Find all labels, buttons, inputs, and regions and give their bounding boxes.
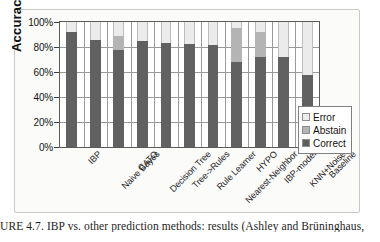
bar-segment-correct (113, 50, 124, 148)
bar-segment-error (302, 22, 313, 75)
bar-segment-error (66, 22, 77, 32)
bar-segment-error (137, 22, 148, 41)
bar-group[interactable] (161, 22, 172, 147)
x-axis-tick-labels: IBPNaive BayesCATODecision TreeTree->Rul… (59, 149, 320, 219)
bar-segment-error (255, 22, 266, 32)
bar-group[interactable] (208, 22, 219, 147)
bar-segment-correct (255, 57, 266, 147)
x-axis-tick-label: IBP (86, 149, 103, 166)
bar-segment-correct (278, 57, 289, 147)
legend-label-error: Error (313, 112, 335, 123)
bar-group[interactable] (66, 22, 77, 147)
bar-segment-correct (208, 45, 219, 148)
bar-group[interactable] (90, 22, 101, 147)
bar-group[interactable] (278, 22, 289, 147)
bar-segment-correct (90, 40, 101, 148)
y-axis-tick-60: 60% (34, 67, 53, 78)
bar-segment-correct (137, 41, 148, 147)
bars-layer (60, 22, 319, 147)
legend-item-error: Error (302, 111, 346, 123)
y-axis-tick-labels: 0%20%40%60%80%100% (15, 21, 59, 148)
figure-caption-number: URE 4.7. (0, 220, 44, 232)
legend-swatch-error-icon (302, 113, 310, 121)
bar-segment-error (208, 22, 219, 45)
y-axis-tick-0: 0% (39, 142, 53, 153)
legend-swatch-abstain-icon (302, 126, 310, 134)
bar-segment-error (90, 22, 101, 40)
bar-group[interactable] (184, 22, 195, 147)
bar-group[interactable] (231, 22, 242, 147)
figure-caption-text: IBP vs. other prediction methods: result… (47, 220, 364, 232)
bar-segment-correct (231, 62, 242, 147)
y-axis-tick-40: 40% (34, 92, 53, 103)
bar-segment-abstain (255, 32, 266, 57)
y-axis-tick-100: 100% (28, 17, 53, 28)
bar-segment-correct (161, 43, 172, 147)
legend-item-correct: Correct (302, 137, 346, 149)
bar-segment-abstain (113, 36, 124, 50)
bar-segment-error (161, 22, 172, 43)
bar-group[interactable] (113, 22, 124, 147)
bar-segment-correct (66, 32, 77, 147)
legend-item-abstain: Abstain (302, 124, 346, 136)
figure-container: Accuracy 0%20%40%60%80%100% IBPNaive Bay… (14, 9, 360, 213)
plot-area (59, 21, 320, 148)
bar-segment-correct (184, 44, 195, 147)
legend-label-abstain: Abstain (313, 125, 346, 136)
legend-swatch-correct-icon (302, 139, 310, 147)
bar-segment-error (278, 22, 289, 57)
y-axis-tick-80: 80% (34, 42, 53, 53)
bar-segment-error (113, 22, 124, 36)
legend-label-correct: Correct (313, 138, 346, 149)
chart-legend: Error Abstain Correct (298, 106, 352, 154)
bar-segment-error (184, 22, 195, 44)
bar-group[interactable] (255, 22, 266, 147)
bar-group[interactable] (137, 22, 148, 147)
bar-segment-abstain (231, 28, 242, 62)
figure-caption: URE 4.7. IBP vs. other prediction method… (0, 220, 380, 232)
y-axis-tick-20: 20% (34, 117, 53, 128)
